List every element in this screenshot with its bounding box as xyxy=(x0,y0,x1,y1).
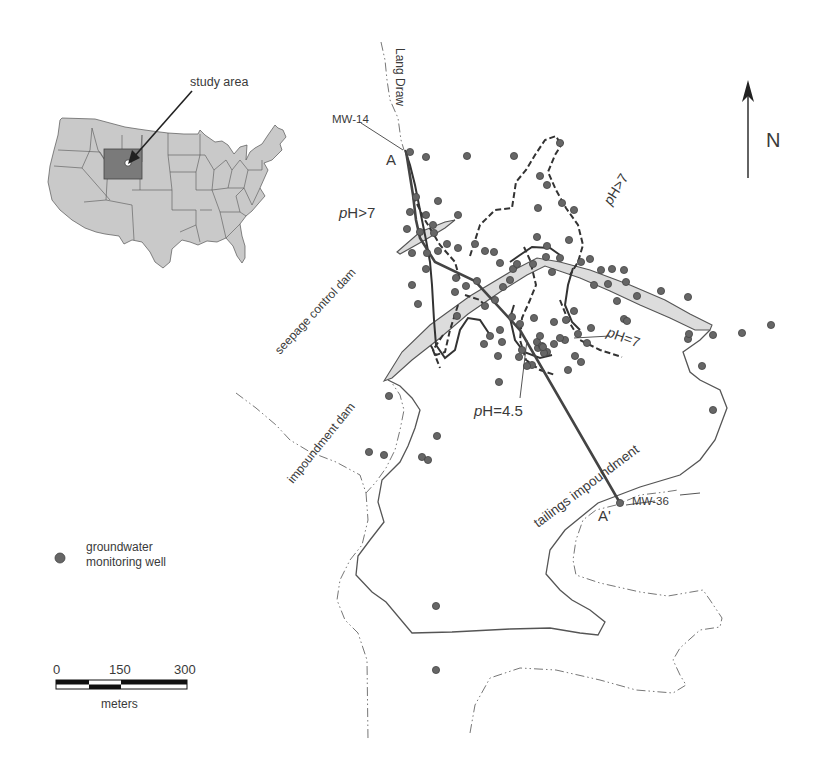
scale-seg-3 xyxy=(121,680,187,685)
monitoring-well xyxy=(471,240,478,247)
monitoring-well xyxy=(556,254,563,261)
monitoring-well xyxy=(490,248,497,255)
monitoring-well xyxy=(586,255,593,262)
monitoring-well xyxy=(454,244,461,251)
section-a-prime-label: A' xyxy=(598,507,611,524)
monitoring-well xyxy=(423,249,430,256)
monitoring-well xyxy=(422,265,429,272)
monitoring-well xyxy=(709,406,716,413)
inset-us-map: study area xyxy=(48,75,286,268)
monitoring-well xyxy=(536,332,543,339)
mw14-leader xyxy=(361,123,403,150)
monitoring-well xyxy=(491,296,498,303)
monitoring-well xyxy=(496,259,503,266)
monitoring-well xyxy=(543,242,550,249)
monitoring-well xyxy=(496,326,503,333)
streams xyxy=(236,42,722,740)
monitoring-well xyxy=(408,281,415,288)
monitoring-well xyxy=(412,193,419,200)
monitoring-well xyxy=(550,318,557,325)
monitoring-well xyxy=(533,233,540,240)
monitoring-well xyxy=(481,247,488,254)
mw14-label: MW-14 xyxy=(332,113,369,125)
monitoring-well xyxy=(571,352,578,359)
monitoring-well xyxy=(499,283,506,290)
monitoring-well xyxy=(530,314,537,321)
lang-draw-label: Lang Draw xyxy=(393,48,407,106)
monitoring-well xyxy=(556,334,563,341)
monitoring-well xyxy=(408,249,415,256)
monitoring-well xyxy=(516,320,523,327)
tailings-boundary xyxy=(356,330,727,635)
monitoring-well xyxy=(620,266,627,273)
scale-seg-2 xyxy=(89,685,121,690)
monitoring-well xyxy=(365,448,372,455)
monitoring-well xyxy=(577,258,584,265)
ph7-label: pH=7 xyxy=(604,323,642,350)
monitoring-well xyxy=(583,339,590,346)
monitoring-well xyxy=(558,199,565,206)
monitoring-well xyxy=(453,312,460,319)
monitoring-well xyxy=(430,229,437,236)
monitoring-well xyxy=(443,240,450,247)
scale-bar: 0 150 300 meters xyxy=(53,662,196,711)
monitoring-well xyxy=(767,321,774,328)
monitoring-well xyxy=(616,499,623,506)
monitoring-wells xyxy=(365,139,774,673)
monitoring-well xyxy=(480,340,487,347)
north-arrow: N xyxy=(742,80,780,178)
monitoring-well xyxy=(463,152,470,159)
monitoring-well xyxy=(597,266,604,273)
monitoring-well xyxy=(515,353,522,360)
monitoring-well xyxy=(534,204,541,211)
legend-well-label-1: groundwater xyxy=(86,540,153,554)
scale-tick-0: 0 xyxy=(53,662,60,677)
monitoring-well xyxy=(434,197,441,204)
study-area-label: study area xyxy=(190,75,248,89)
monitoring-well xyxy=(623,317,630,324)
monitoring-well xyxy=(403,225,410,232)
monitoring-well xyxy=(433,432,440,439)
monitoring-well xyxy=(508,313,515,320)
monitoring-well xyxy=(564,366,571,373)
scale-unit-label: meters xyxy=(101,697,138,711)
monitoring-well xyxy=(406,148,413,155)
monitoring-well xyxy=(570,206,577,213)
left-valley-stream xyxy=(337,493,368,740)
monitoring-well xyxy=(518,346,525,353)
monitoring-well xyxy=(432,602,439,609)
monitoring-well xyxy=(556,139,563,146)
monitoring-well xyxy=(495,378,502,385)
ph45-label: pH=4.5 xyxy=(473,402,523,419)
seepage-dam-label: seepage control dam xyxy=(272,266,359,358)
north-label: N xyxy=(766,129,780,151)
monitoring-well xyxy=(550,340,557,347)
monitoring-well xyxy=(513,260,520,267)
ph-gt7-left-label: pH>7 xyxy=(338,204,375,221)
monitoring-well xyxy=(385,392,392,399)
legend-well-label-2: monitoring well xyxy=(86,555,166,569)
monitoring-well xyxy=(698,362,705,369)
monitoring-well xyxy=(542,253,549,260)
monitoring-well xyxy=(523,362,530,369)
monitoring-well xyxy=(685,330,692,337)
scale-tick-300: 300 xyxy=(174,662,196,677)
monitoring-well xyxy=(536,172,543,179)
monitoring-well xyxy=(506,276,513,283)
legend: groundwater monitoring well xyxy=(55,540,166,569)
monitoring-well xyxy=(587,324,594,331)
monitoring-well xyxy=(434,247,441,254)
monitoring-well xyxy=(462,282,469,289)
monitoring-well xyxy=(657,287,664,294)
monitoring-well xyxy=(380,451,387,458)
monitoring-well xyxy=(473,277,480,284)
monitoring-well xyxy=(543,181,550,188)
monitoring-well xyxy=(633,292,640,299)
monitoring-well xyxy=(613,297,620,304)
us-outline xyxy=(48,118,286,268)
right-valley-stream xyxy=(470,490,722,733)
ph-gt7-right-label: pH>7 xyxy=(599,170,631,208)
monitoring-well xyxy=(498,338,505,345)
monitoring-well xyxy=(548,268,555,275)
monitoring-well xyxy=(604,280,611,287)
